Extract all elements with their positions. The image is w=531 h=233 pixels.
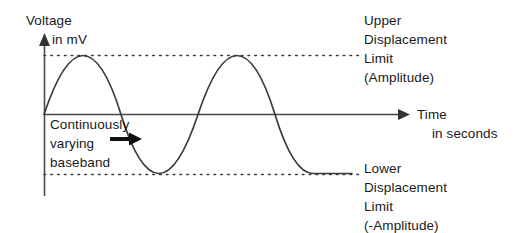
- upper-displacement-limit-label: Upper Displacement Limit (Amplitude): [364, 11, 447, 87]
- baseband-annotation-label: Continuously varying baseband: [50, 115, 129, 172]
- y-axis-units: in mV: [52, 30, 87, 49]
- x-axis-arrowhead-icon: [398, 109, 410, 120]
- x-axis-units: in seconds: [432, 124, 498, 143]
- lower-displacement-limit-label: Lower Displacement Limit (-Amplitude): [364, 159, 447, 233]
- waveform-figure: Voltage in mV Time in seconds Upper Disp…: [0, 0, 531, 233]
- x-axis-title: Time: [417, 105, 447, 124]
- y-axis-arrowhead-icon: [39, 33, 50, 46]
- y-axis-title: Voltage: [26, 11, 72, 30]
